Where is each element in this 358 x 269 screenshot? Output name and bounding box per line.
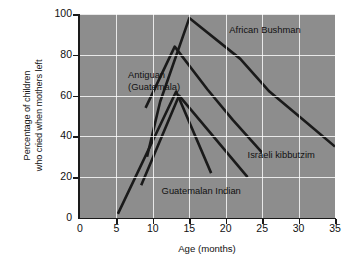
y-tick-label: 60 [46, 89, 72, 101]
plot-area: African BushmanAntiguan(Guatemala)Israel… [80, 14, 335, 218]
series-label-antiguan-line-1: Antiguan [128, 69, 165, 80]
y-axis-title-line-1: Percentage of children [22, 21, 34, 211]
gridline-vertical [153, 14, 154, 218]
gridline-vertical [116, 14, 117, 218]
x-tick-mark [189, 219, 191, 224]
y-axis-title-line-2: who cried when mothers left [33, 21, 45, 211]
y-tick-label: 100 [46, 7, 72, 19]
y-tick-mark [73, 96, 78, 98]
gridline-vertical [299, 14, 300, 218]
y-tick-mark [73, 14, 78, 16]
x-axis-tick-labels: 05101520253035 [0, 222, 358, 238]
x-tick-mark [226, 219, 228, 224]
series-label-antiguan-line-2: (Guatemala) [128, 81, 180, 92]
y-tick-label: 40 [46, 129, 72, 141]
y-tick-label: 80 [46, 48, 72, 60]
gridline-vertical [262, 14, 263, 218]
series-label-israeli-kibbutzim: Israeli kibbutzim [248, 149, 315, 160]
y-axis-title: Percentage of children who cried when mo… [22, 21, 45, 211]
x-tick-mark [116, 219, 118, 224]
chart-figure: Percentage of children who cried when mo… [0, 0, 358, 269]
x-tick-mark [262, 219, 264, 224]
series-label-african-bushman: African Bushman [229, 24, 300, 35]
gridline-horizontal [80, 136, 335, 137]
x-tick-mark [335, 219, 337, 224]
x-axis-title: Age (months) [0, 243, 358, 254]
y-tick-mark [73, 55, 78, 57]
x-tick-label: 0 [65, 222, 95, 234]
gridline-horizontal [80, 96, 335, 97]
gridline-horizontal [80, 177, 335, 178]
x-tick-mark [299, 219, 301, 224]
gridline-horizontal [80, 14, 335, 15]
x-axis-title-text: Age (months) [178, 243, 236, 254]
y-tick-label: 20 [46, 170, 72, 182]
gridline-horizontal [80, 55, 335, 56]
x-tick-mark [153, 219, 155, 224]
series-label-guatemalan-indian: Guatemalan Indian [162, 185, 241, 196]
y-tick-mark [73, 136, 78, 138]
y-tick-mark [73, 177, 78, 179]
